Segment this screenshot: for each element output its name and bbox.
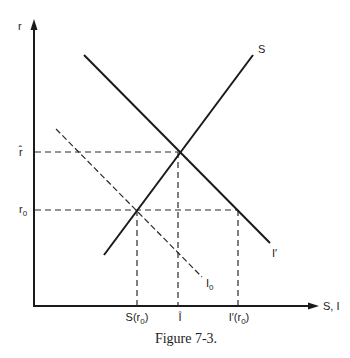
x-tick-S-r0-tail: ): [145, 311, 149, 323]
x-tick-I-hat: Î: [177, 311, 182, 323]
y-axis: [31, 19, 38, 306]
saving-investment-diagram: r S, I S I′ I0 r̂ r0 S(r0) Î I′(r0) Figu…: [0, 0, 350, 358]
curve-I-prime-label: I′: [272, 247, 277, 259]
x-axis-arrow-icon: [308, 303, 319, 310]
x-tick-I-prime-r0: I′(r0): [229, 311, 250, 326]
y-axis-arrow-icon: [31, 19, 38, 30]
figure-caption: Figure 7-3.: [155, 331, 217, 346]
curve-I0-label: I0: [206, 277, 214, 292]
y-tick-r0: r0: [19, 203, 28, 218]
curve-I0-label-sub: 0: [209, 283, 214, 292]
x-tick-I-prime-r0-main: I′(r: [229, 311, 242, 323]
y-axis-label: r: [18, 20, 22, 32]
y-tick-r0-sub: 0: [23, 209, 28, 218]
x-tick-S-r0-main: S(r: [126, 311, 141, 323]
x-axis-label: S, I: [323, 300, 340, 312]
curve-S-label: S: [258, 43, 265, 55]
x-axis: [33, 303, 319, 310]
x-tick-I-prime-r0-tail: ): [246, 311, 250, 323]
curve-I-prime: [84, 55, 270, 243]
y-tick-r-hat: r̂: [18, 145, 23, 158]
x-tick-S-r0: S(r0): [126, 311, 149, 326]
